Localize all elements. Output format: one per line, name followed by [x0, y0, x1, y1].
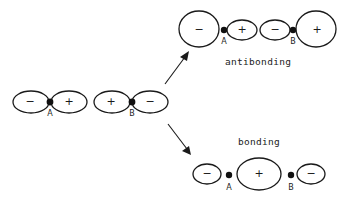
sign: + — [106, 95, 115, 108]
atom-label-a: A — [226, 183, 232, 192]
arrowhead-icon — [182, 146, 191, 155]
sign: − — [145, 95, 154, 108]
orbital-diagram: − + A + − B − + A − + B antibonding — [0, 0, 349, 198]
nucleus-b — [290, 27, 296, 33]
nucleus-a — [47, 99, 54, 106]
atom-label-a: A — [47, 109, 53, 118]
antibonding-caption: antibonding — [225, 56, 291, 67]
antibonding-orbital: − + A − + B antibonding — [179, 11, 336, 67]
atom-label-b: B — [129, 109, 135, 118]
left-orbital-b: + − B — [94, 91, 168, 118]
sign: + — [312, 23, 321, 36]
sign: − — [306, 167, 315, 180]
atom-label-a: A — [221, 37, 227, 46]
sign: + — [64, 95, 73, 108]
arrow-to-antibonding — [165, 51, 189, 84]
sign: − — [270, 23, 279, 36]
bonding-orbital: bonding − A + B − — [193, 136, 325, 192]
nucleus-b — [129, 99, 136, 106]
sign: − — [202, 167, 211, 180]
sign: + — [237, 23, 246, 36]
sign: + — [254, 167, 263, 180]
bonding-caption: bonding — [238, 136, 280, 147]
arrowhead-icon — [180, 51, 189, 61]
atom-label-b: B — [288, 183, 294, 192]
sign: − — [194, 23, 203, 36]
nucleus-a — [221, 27, 227, 33]
nucleus-b — [288, 172, 294, 178]
atom-label-b: B — [290, 37, 296, 46]
left-orbital-a: − + A — [13, 91, 87, 118]
nucleus-a — [226, 172, 232, 178]
arrow-to-bonding — [168, 124, 191, 155]
sign: − — [25, 95, 34, 108]
